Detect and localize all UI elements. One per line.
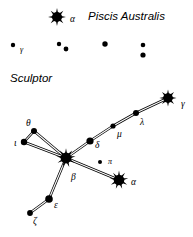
star-core — [114, 175, 125, 186]
star-marker-dot — [98, 160, 102, 164]
star-chart: αγγλμδβθιεζαπ Piscis AustralisSculptor — [0, 0, 193, 237]
star-marker-dot — [141, 43, 146, 48]
star-marker-dot — [11, 43, 15, 47]
star-marker-dot — [133, 110, 139, 116]
star-label-sc-epsilon: ε — [54, 200, 58, 210]
star-core — [52, 12, 62, 22]
star-marker-dot — [110, 123, 115, 128]
star-core — [61, 153, 72, 164]
star-marker-dot — [31, 128, 37, 134]
star-marker-dot — [86, 137, 93, 144]
constellation-name-label: Piscis Australis — [88, 10, 165, 22]
star-label-sc-delta: δ — [95, 140, 100, 150]
star-marker-dot — [57, 42, 61, 46]
star-marker-dot — [21, 139, 27, 145]
star-label-sc-mu: μ — [116, 129, 122, 139]
star-label-sc-gamma: γ — [181, 99, 185, 109]
constellation-name-label: Sculptor — [10, 72, 53, 84]
star-marker-dot — [64, 47, 69, 52]
star-label-sc-lambda: λ — [139, 117, 144, 127]
star-core — [163, 93, 173, 103]
star-label-sc-beta: β — [70, 172, 76, 182]
star-marker-dot — [45, 195, 53, 203]
star-label-sc-theta: θ — [26, 118, 31, 128]
star-marker-dot — [140, 52, 145, 57]
sky-canvas: αγγλμδβθιεζαπ Piscis AustralisSculptor — [0, 0, 193, 237]
star-marker-dot — [102, 41, 107, 46]
star-label-sc-iota: ι — [14, 138, 17, 148]
